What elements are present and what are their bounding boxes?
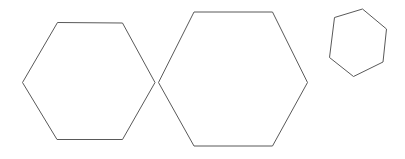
canvas-background: [0, 0, 405, 159]
hexagons-svg: [0, 0, 405, 159]
drawing-canvas: [0, 0, 405, 159]
